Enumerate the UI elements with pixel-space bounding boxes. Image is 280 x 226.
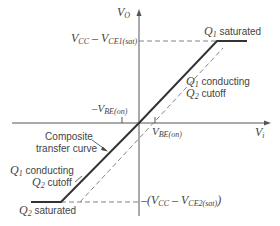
- r-q2-sub: 2: [195, 92, 199, 101]
- r-q2-text: cutoff: [201, 88, 225, 99]
- bottom-level-sub1: CC: [158, 199, 169, 208]
- pos-vbe-prefix: V: [152, 125, 159, 137]
- q1-sat-q: Q: [204, 24, 213, 38]
- top-level-sub1: CC: [78, 37, 89, 46]
- y-axis-arrow-icon: [137, 9, 142, 16]
- top-level-label: VCC – VCE1(sat): [71, 33, 137, 47]
- l-q1-sub: 1: [19, 169, 23, 178]
- l-q2-text: cutoff: [47, 177, 71, 188]
- composite-label-line2: transfer curve: [36, 143, 97, 154]
- neg-vbe-label: –VBE(on): [92, 103, 127, 117]
- y-axis-label-sub: O: [124, 11, 130, 20]
- q2-saturated-label: Q2 saturated: [19, 205, 76, 219]
- q2-sat-text: saturated: [34, 205, 76, 216]
- neg-vbe-prefix: –V: [92, 102, 104, 114]
- left-q2-cutoff-label: Q2 cutoff: [32, 177, 72, 191]
- r-q2-q: Q: [186, 86, 195, 100]
- pos-vbe-sub: BE(on): [159, 130, 182, 139]
- l-q1-q: Q: [10, 163, 19, 177]
- y-axis-label: VO: [117, 7, 130, 21]
- pos-vbe-label: VBE(on): [152, 126, 182, 140]
- q1-sat-sub: 1: [213, 30, 217, 39]
- top-level-sub2: CE1(sat): [108, 37, 137, 46]
- bottom-level-mid: – V: [169, 193, 188, 207]
- x-axis-label: Vi: [255, 127, 265, 141]
- composite-label-line1: Composite: [44, 131, 94, 142]
- transfer-curve-diagram: VO Vi VCC – VCE1(sat) –(VCC – VCE2(sat))…: [0, 0, 280, 226]
- q1-saturated-label: Q1 saturated: [204, 26, 261, 40]
- q1-sat-text: saturated: [219, 26, 261, 37]
- right-q2-cutoff-label: Q2 cutoff: [186, 88, 226, 102]
- bottom-level-suffix: ): [217, 193, 221, 207]
- x-axis-arrow-icon: [264, 121, 271, 126]
- bottom-level-label: –(VCC – VCE2(sat)): [141, 195, 221, 209]
- x-axis-label-sub: i: [262, 131, 264, 140]
- q2-sat-sub: 2: [28, 209, 32, 218]
- bottom-level-prefix: –(V: [141, 193, 158, 207]
- q2-sat-q: Q: [19, 203, 28, 217]
- neg-vbe-sub: BE(on): [104, 107, 127, 116]
- l-q2-sub: 2: [41, 181, 45, 190]
- top-level-mid: – V: [89, 31, 108, 45]
- bottom-level-sub2: CE2(sat): [188, 199, 217, 208]
- l-q2-q: Q: [32, 175, 41, 189]
- r-q1-text: conducting: [201, 76, 249, 87]
